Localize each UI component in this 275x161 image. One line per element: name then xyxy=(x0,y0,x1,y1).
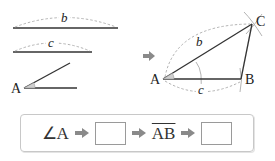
side-b-label: b xyxy=(196,34,203,49)
vertex-a-label: A xyxy=(150,72,161,87)
segment-c: c xyxy=(13,35,92,52)
vertex-b-label: B xyxy=(245,72,254,87)
segment-b-label: b xyxy=(61,10,68,25)
right-arrow-icon xyxy=(75,128,89,138)
right-arrow-icon xyxy=(143,51,155,61)
side-c-label: c xyxy=(198,82,204,97)
construction-steps-box: ∠A AB xyxy=(20,114,254,152)
step-angle-a: ∠A xyxy=(42,125,69,142)
vertex-c-label: C xyxy=(256,14,265,29)
step-segment-ab: AB xyxy=(152,125,176,142)
segment-c-label: c xyxy=(48,35,54,50)
answer-blank-1[interactable] xyxy=(95,122,126,145)
right-arrow-icon xyxy=(181,128,195,138)
angle-a: A xyxy=(11,63,77,96)
triangle-abc: b c A B C xyxy=(150,12,265,97)
answer-blank-2[interactable] xyxy=(201,122,232,145)
right-arrow-icon xyxy=(132,128,146,138)
segment-b: b xyxy=(13,10,118,28)
angle-vertex-label: A xyxy=(11,81,22,96)
